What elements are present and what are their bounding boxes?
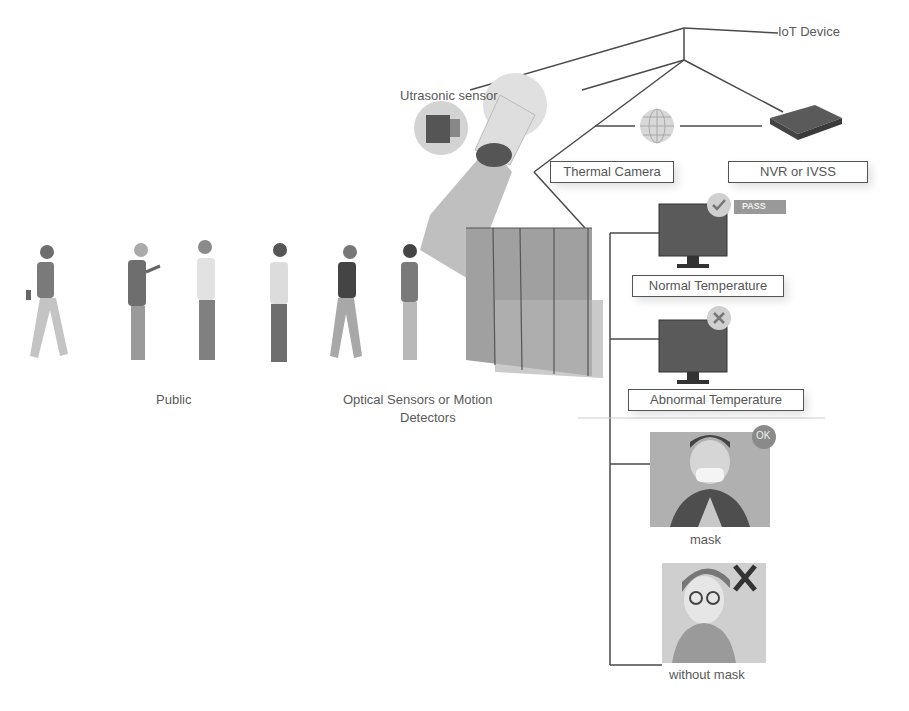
abnormal-temperature-label: Abnormal Temperature [628, 389, 804, 411]
person-icon [270, 243, 288, 362]
people-queue [0, 0, 909, 711]
person-icon [401, 244, 418, 360]
person-icon [26, 245, 68, 358]
mask-label: mask [690, 532, 721, 547]
thermal-camera-label: Thermal Camera [550, 161, 674, 183]
optical-sensors-label-line2: Detectors [400, 410, 456, 425]
iot-device-label: IoT Device [778, 24, 840, 39]
normal-temperature-label: Normal Temperature [632, 275, 784, 297]
person-icon [330, 245, 362, 358]
nvr-label: NVR or IVSS [728, 161, 868, 183]
optical-sensors-label-line1: Optical Sensors or Motion [343, 392, 493, 407]
public-label: Public [156, 392, 191, 407]
person-icon [197, 240, 215, 360]
person-icon [128, 243, 160, 360]
without-mask-label: without mask [669, 667, 745, 682]
pass-badge: PASS [742, 201, 766, 211]
utrasonic-sensor-label: Utrasonic sensor [400, 88, 498, 103]
ok-badge: OK [756, 430, 770, 441]
